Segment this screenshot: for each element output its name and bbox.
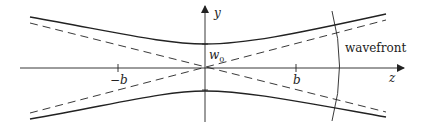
- beam-envelope-upper: [30, 14, 386, 44]
- wavefront-label: wavefront: [345, 41, 406, 55]
- y-axis-label: y: [213, 6, 221, 20]
- wavefront-arc: [332, 11, 340, 121]
- gaussian-beam-diagram: y z w0 −b b wavefront: [0, 0, 424, 138]
- beam-envelope-lower: [30, 91, 386, 119]
- pos-rayleigh-label: b: [293, 73, 301, 87]
- waist-label-subscript: 0: [219, 55, 224, 64]
- z-axis-label: z: [388, 71, 396, 85]
- neg-rayleigh-label: −b: [110, 73, 128, 87]
- waist-label: w0: [209, 48, 224, 64]
